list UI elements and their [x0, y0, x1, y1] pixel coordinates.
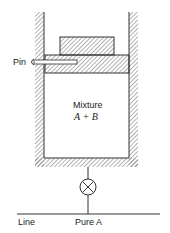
mixture-label: Mixture — [73, 101, 103, 110]
pure-a-label: Pure A — [75, 218, 102, 227]
mixture-formula: A + B — [74, 112, 98, 122]
line-label: Line — [18, 218, 35, 227]
right-wall — [129, 12, 138, 167]
left-wall — [35, 12, 44, 167]
pin-label: Pin — [13, 58, 26, 67]
weight-block — [60, 37, 114, 55]
bottom-wall — [35, 158, 138, 167]
pin — [34, 60, 77, 64]
valve-icon — [80, 179, 96, 195]
